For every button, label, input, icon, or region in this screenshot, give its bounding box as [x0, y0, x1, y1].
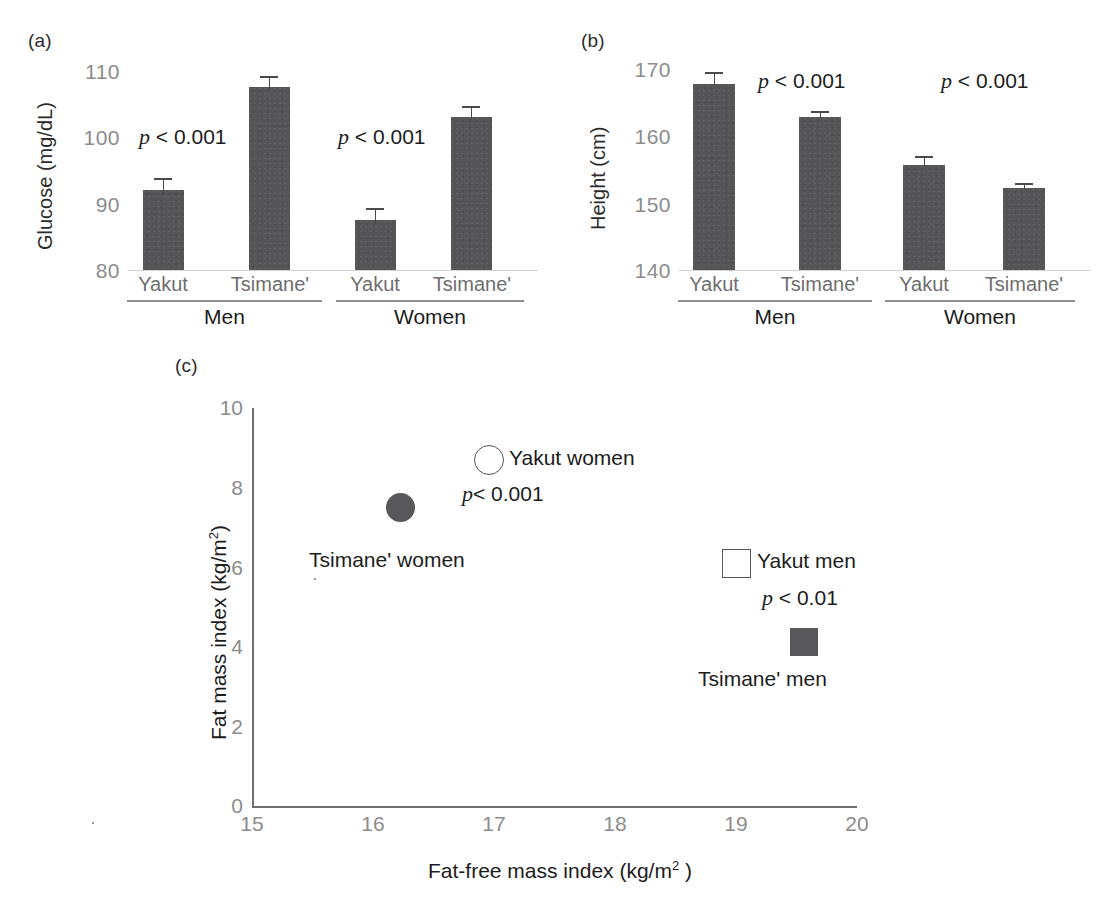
datapoint-tsimane-men: [790, 628, 818, 656]
panel-c-xtick-20: 20: [827, 812, 887, 836]
scan-speck-corner: [92, 822, 94, 824]
pvalue-men-text: < 0.01: [773, 586, 838, 609]
label-tsimane-men: Tsimane' men: [698, 667, 827, 691]
panel-c: (c) 10 8 6 4 2 0 15 16 17 18 19 20 Fat m…: [0, 0, 1106, 908]
panel-c-y-axis-title: Fat mass index (kg/m2): [206, 525, 231, 740]
pvalue-women-p: p: [462, 481, 473, 506]
panel-c-x-axis: [252, 806, 857, 808]
label-yakut-men: Yakut men: [757, 549, 856, 573]
panel-c-xtick-19: 19: [706, 812, 766, 836]
panel-c-xtick-15: 15: [222, 812, 282, 836]
panel-c-xtick-16: 16: [343, 812, 403, 836]
panel-c-xtick-18: 18: [585, 812, 645, 836]
pvalue-women: p< 0.001: [462, 481, 544, 507]
pvalue-men: p < 0.01: [762, 585, 838, 611]
panel-c-x-axis-title: Fat-free mass index (kg/m2 ): [428, 858, 692, 883]
panel-c-y-axis: [252, 408, 254, 807]
figure-container: (a) Glucose (mg/dL) 110 100 90 80 p < 0.…: [0, 0, 1106, 908]
panel-c-y-axis-title-text: Fat mass index (kg/m: [207, 539, 230, 740]
panel-c-x-axis-title-text: Fat-free mass index (kg/m: [428, 859, 672, 882]
panel-c-tag: (c): [175, 355, 198, 377]
panel-c-xtick-17: 17: [464, 812, 524, 836]
datapoint-yakut-women: [474, 445, 504, 475]
panel-c-y-axis-title-sup: 2: [206, 532, 221, 539]
panel-c-ytick-8: 8: [185, 476, 243, 500]
datapoint-tsimane-women: [386, 493, 415, 522]
pvalue-women-text: < 0.001: [473, 482, 544, 505]
scan-speck: [314, 578, 316, 580]
panel-c-y-axis-title-suffix: ): [207, 525, 230, 532]
panel-c-ytick-10: 10: [185, 396, 243, 420]
label-tsimane-women: Tsimane' women: [309, 548, 465, 572]
label-yakut-women: Yakut women: [509, 446, 635, 470]
datapoint-yakut-men: [722, 549, 751, 578]
panel-c-x-axis-title-suffix: ): [679, 859, 692, 882]
pvalue-men-p: p: [762, 585, 773, 610]
